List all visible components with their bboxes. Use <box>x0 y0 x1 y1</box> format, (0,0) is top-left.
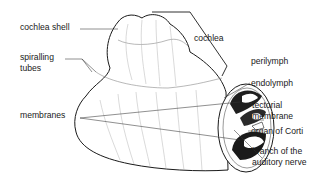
label-branch-auditory-nerve-line1: branch of the <box>252 147 302 157</box>
label-spiralling-tubes-line2: tubes <box>20 64 41 74</box>
label-membranes: membranes <box>20 111 65 121</box>
label-endolymph: endolymph <box>251 79 293 89</box>
label-spiralling-tubes-line1: spiralling <box>20 53 54 63</box>
label-branch-auditory-nerve-line2: auditory nerve <box>252 158 306 168</box>
label-organ-of-corti: organ of Corti <box>251 127 303 137</box>
label-cochlea-shell: cochlea shell <box>20 23 70 33</box>
label-tectorial-membrane-line1: tectorial <box>252 101 282 111</box>
label-perilymph: perilymph <box>251 57 288 67</box>
cochlea-diagram: cochlea shell spiralling tubes membranes… <box>0 0 331 181</box>
label-tectorial-membrane-line2: membrane <box>252 112 293 122</box>
label-cochlea: cochlea <box>194 34 224 44</box>
